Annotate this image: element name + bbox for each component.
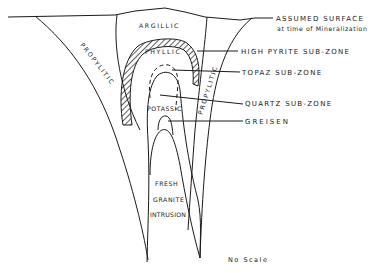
callout-assumed-surface: ASSUMED SURFACE [276,15,364,23]
greisen-zone-boundary [158,116,173,135]
potassic-left-boundary [147,140,149,262]
zone-label-intrusion: INTRUSION [150,211,186,218]
zone-label-argillic: ARGILLIC [139,22,180,29]
zone-label-fresh: FRESH [155,180,178,187]
callout-high-pyrite: HIGH PYRITE SUB-ZONE [241,48,350,56]
zone-label-phyllic: PHYLLIC [145,48,181,55]
topaz-sub-zone-boundary [149,65,178,110]
zone-label-propylitic-left: PROPYLITIC [79,41,116,86]
zone-label-potassic: POTASSIC [147,105,182,112]
callout-topaz: TOPAZ SUB-ZONE [241,69,322,77]
fresh-granite-boundary [150,130,200,258]
callout-mineralization: at time of Mineralization [277,25,368,32]
scale-note: No Scale [228,256,268,264]
callout-quartz: QUARTZ SUB-ZONE [245,100,332,108]
assumed-surface-line [8,8,255,20]
callout-greisen: GREISEN [245,118,290,126]
alteration-zoning-diagram: ARGILLIC PHYLLIC PROPYLITIC PROPYLITIC P… [0,0,390,273]
zone-label-granite: GRANITE [153,196,184,203]
topaz-leader [172,70,240,72]
